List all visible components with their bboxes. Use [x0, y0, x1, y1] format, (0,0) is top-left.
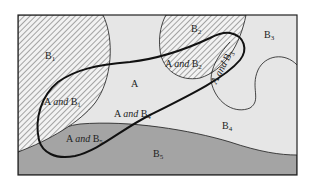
label-a: A: [131, 78, 139, 89]
partition-diagram: B1 B2 B3 A B4 B5 A and B1 A and B2 A and…: [0, 0, 315, 188]
